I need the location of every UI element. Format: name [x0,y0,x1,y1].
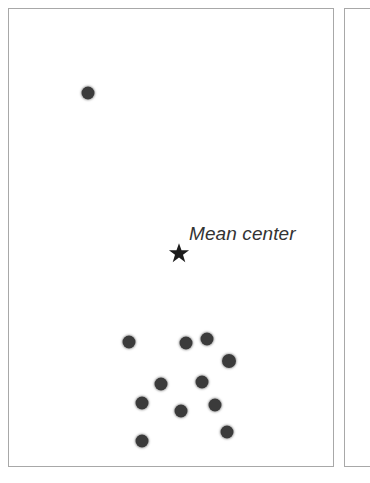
data-point [222,354,236,368]
data-point [180,337,193,350]
data-point [82,87,95,100]
data-point [136,397,149,410]
data-point [221,426,234,439]
data-point [196,376,209,389]
data-point [123,336,136,349]
adjacent-panel-sliver [344,8,370,467]
data-point [209,399,222,412]
data-point [136,435,149,448]
main-panel: Mean center [8,8,334,467]
scatter-plot-area: Mean center [18,18,342,475]
data-point [175,405,188,418]
star-icon [169,243,190,264]
mean-center-label: Mean center [189,223,296,245]
data-point [201,333,214,346]
data-point [155,378,168,391]
